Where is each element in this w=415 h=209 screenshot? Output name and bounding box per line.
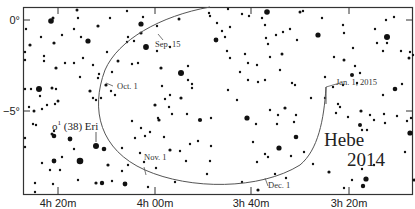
x-tick-label: 4h 20m bbox=[40, 197, 77, 209]
x-tick-label: 4h 00m bbox=[137, 197, 174, 209]
date-label-sep15: Sep. 15 bbox=[155, 39, 181, 49]
object-year-label: 2014 bbox=[347, 149, 386, 170]
date-tick bbox=[144, 167, 146, 175]
star-designation: (38) Eri bbox=[61, 120, 98, 133]
date-label-dec1: Dec. 1 bbox=[268, 180, 290, 190]
x-tick-label: 3h 40m bbox=[233, 197, 270, 209]
y-tick-label: 0° bbox=[9, 14, 20, 26]
x-tick-label: 3h 20m bbox=[331, 197, 368, 209]
date-label-nov1: Nov. 1 bbox=[144, 152, 167, 162]
date-label-oct1: Oct. 1 bbox=[117, 81, 138, 91]
y-tick-label: −5° bbox=[3, 105, 20, 117]
star-chart: 4h 20m 4h 00m 3h 40m 3h 20m 0° −5° bbox=[0, 0, 415, 209]
date-label-jan1: Jan. 1, 2015 bbox=[336, 77, 377, 87]
object-name-label: Hebe bbox=[324, 129, 364, 150]
named-star-label: o1 (38) Eri bbox=[52, 119, 98, 133]
hebe-path bbox=[98, 7, 326, 184]
